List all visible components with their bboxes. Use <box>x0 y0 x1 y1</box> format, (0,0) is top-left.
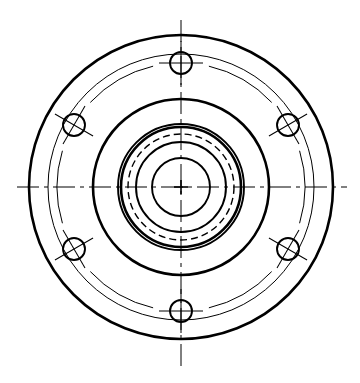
flange-front-view-svg <box>0 0 360 383</box>
drawing-background <box>0 0 360 383</box>
technical-drawing-canvas <box>0 0 360 383</box>
